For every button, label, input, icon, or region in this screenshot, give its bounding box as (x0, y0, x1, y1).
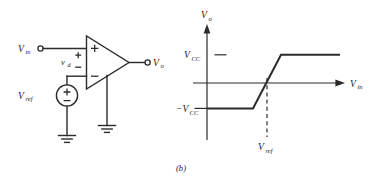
vref-plot-label: V ref (258, 141, 274, 154)
reference-voltage-source (56, 85, 77, 106)
x-axis-label: V in (350, 78, 363, 91)
vcc-tick-label: V CC (184, 49, 201, 62)
vin-label-sub: in (25, 48, 31, 55)
figure-caption: (b) (176, 163, 186, 173)
opamp-triangle (87, 36, 130, 89)
y-axis-label-base: V (201, 9, 208, 20)
output-terminal-node[interactable] (145, 60, 150, 65)
vref-circuit-label-sub: ref (25, 95, 33, 102)
vo-label-sub: o (160, 62, 164, 69)
ground-symbol-reference (59, 136, 76, 143)
vin-label-base: V (18, 43, 25, 54)
vd-label-sub: d (68, 62, 72, 68)
figure-svg: v d V in (0, 0, 372, 186)
x-axis-arrowhead (335, 80, 345, 87)
input-terminal-node[interactable] (38, 46, 43, 51)
vcc-tick-label-base: V (184, 49, 191, 60)
vd-plus-sign (75, 52, 81, 58)
figure-container: v d V in (0, 0, 372, 186)
vin-label: V in (18, 43, 31, 56)
y-axis-label-sub: o (208, 15, 212, 22)
y-axis-label: V o (201, 9, 212, 22)
x-axis-label-sub: in (357, 83, 363, 90)
vd-label: v d (61, 58, 72, 68)
vref-plot-label-base: V (258, 141, 265, 152)
neg-vcc-tick-label: −V CC (176, 103, 199, 116)
neg-vcc-tick-label-base: −V (176, 103, 189, 114)
x-axis-label-base: V (350, 78, 357, 89)
vref-circuit-label-base: V (18, 90, 25, 101)
transfer-curve (207, 55, 340, 109)
vcc-tick-label-sub: CC (191, 55, 200, 62)
vref-plot-label-sub: ref (265, 147, 273, 154)
transfer-characteristic-plot: V o V in V CC −V CC V ref (176, 9, 363, 154)
vref-circuit-label: V ref (18, 90, 34, 103)
circuit-diagram: v d V in (18, 36, 164, 142)
vo-label-base: V (153, 57, 160, 68)
neg-vcc-tick-label-sub: CC (190, 109, 199, 116)
vd-label-base: v (61, 58, 65, 67)
y-axis-arrowhead (204, 24, 211, 34)
vo-label: V o (153, 57, 164, 70)
ground-symbol-opamp (99, 126, 116, 133)
